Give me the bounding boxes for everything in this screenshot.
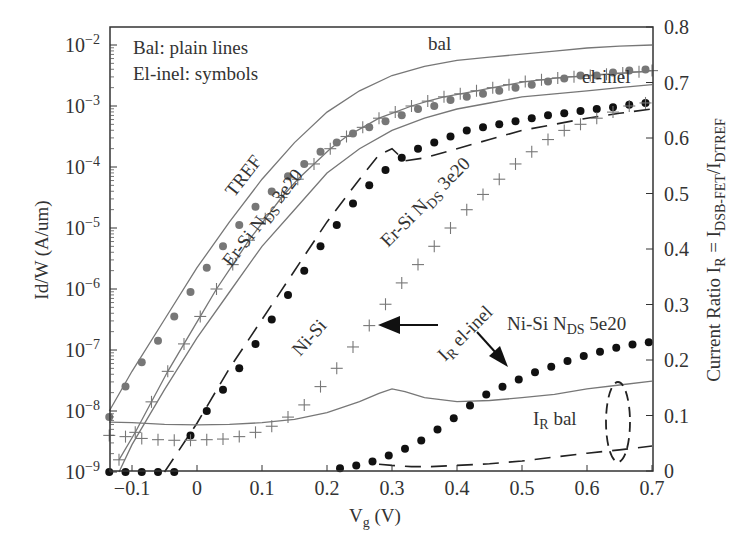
legend-note-bal: Bal: plain lines [133,37,248,58]
y-left-tick-label: 10−7 [65,337,100,361]
annotation-nisi-5e20: Ni-Si NDS 5e20 [507,313,626,337]
x-tick-label: 0.6 [575,477,600,499]
x-tick-label: 0.3 [380,477,405,499]
legend-note-elinel: El-inel: symbols [133,63,258,84]
arrow-left-icon [378,316,438,334]
series-tref-bal [109,45,652,411]
x-tick-label: 0.7 [640,477,665,499]
y-left-tick-label: 10−4 [65,154,100,178]
annotation-ir-bal: IR bal [533,408,577,432]
y-right-tick-label: 0.8 [664,16,689,38]
y-left-tick-label: 10−5 [65,215,100,239]
x-tick-label: 0 [192,477,202,499]
chart-figure: −0.100.10.20.30.40.50.60.710−210−310−410… [0,0,756,555]
y-left-tick-label: 10−8 [65,398,100,422]
annotation-nisi: Ni-Si [287,315,330,360]
y-left-tick-label: 10−2 [65,32,100,56]
y-right-tick-label: 0.6 [664,127,689,149]
y-left-tick-label: 10−9 [65,459,100,483]
arrow-down-right-icon [477,332,508,367]
y-axis-right-title: Current Ratio IR = IDSB-FET/IDTREF [703,118,728,382]
ticks-layer: −0.100.10.20.30.40.50.60.710−210−310−410… [65,16,689,499]
series-ni-si-bal [165,109,653,472]
y-right-tick-label: 0 [664,460,674,482]
x-axis-title: Vg (V) [349,505,401,530]
y-left-tick-label: 10−3 [65,93,100,117]
annotation-ersi-low: Er-Si NDS 3e20 [376,153,476,253]
annotation-ir-el-inel: IR el-inel [433,301,499,367]
y-right-tick-label: 0.3 [664,294,689,316]
x-tick-label: 0.4 [445,477,470,499]
y-right-tick-label: 0.7 [664,72,689,94]
y-axis-left-title: Id/W (A/um) [31,200,53,299]
annotation-el-inel: el-inel [582,66,631,87]
y-right-tick-label: 0.1 [664,405,689,427]
y-left-tick-label: 10−6 [65,276,100,300]
annotation-bal: bal [428,33,451,54]
x-tick-label: 0.2 [315,477,340,499]
x-tick-label: −0.1 [114,477,150,499]
annotation-tref: TREF [221,151,266,201]
x-tick-label: 0.1 [250,477,275,499]
y-right-tick-label: 0.4 [664,238,689,260]
x-tick-label: 0.5 [510,477,535,499]
y-right-tick-label: 0.5 [664,183,689,205]
plot-frame [110,27,653,471]
y-right-tick-label: 0.2 [664,349,689,371]
